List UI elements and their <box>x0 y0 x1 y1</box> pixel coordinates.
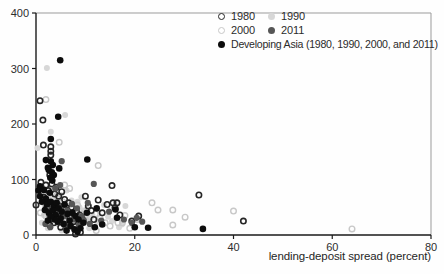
y-tick-label: 300 <box>11 63 29 75</box>
legend-marker-2011-icon <box>268 27 275 34</box>
data-point <box>56 140 62 146</box>
data-point <box>60 221 67 228</box>
legend-item-1980: 1980 <box>218 10 268 22</box>
legend-row-1: 1980 1990 <box>218 9 438 23</box>
data-point <box>100 210 105 215</box>
legend-item-1990: 1990 <box>268 10 305 22</box>
legend-marker-1980-icon <box>218 13 225 20</box>
x-tick-label: 20 <box>129 241 141 253</box>
data-point <box>41 187 48 194</box>
legend-label-developing-asia: Developing Asia (1980, 1990, 2000, and 2… <box>231 38 438 50</box>
data-point <box>61 201 68 208</box>
data-point <box>57 57 64 64</box>
y-tick-label: 400 <box>11 7 29 19</box>
data-point <box>134 215 140 221</box>
y-tick-label: 100 <box>11 174 29 186</box>
data-point <box>47 224 53 230</box>
data-point <box>99 221 106 228</box>
y-tick-label: 200 <box>11 118 29 130</box>
data-point <box>241 218 246 223</box>
data-point <box>45 217 52 224</box>
x-tick-label: 40 <box>227 241 239 253</box>
data-point <box>114 215 121 222</box>
data-point <box>80 220 87 227</box>
data-point <box>53 200 60 207</box>
data-point <box>107 223 113 229</box>
data-point <box>121 216 127 222</box>
data-point <box>40 117 45 122</box>
data-point <box>145 225 152 232</box>
legend-label-2011: 2011 <box>281 24 304 36</box>
data-point <box>91 181 97 187</box>
y-tick-label: 0 <box>23 229 29 241</box>
legend-label-1980: 1980 <box>231 10 255 22</box>
data-point <box>48 129 54 135</box>
data-point <box>182 214 188 220</box>
data-point <box>95 163 101 169</box>
data-point <box>59 158 65 164</box>
data-point <box>48 136 55 143</box>
legend-marker-developing-asia-icon <box>218 41 225 48</box>
data-point <box>66 217 73 224</box>
data-point <box>47 190 54 197</box>
legend-row-3: Developing Asia (1980, 1990, 2000, and 2… <box>218 37 438 51</box>
data-point <box>43 97 49 103</box>
data-point <box>35 145 41 151</box>
legend-item-2000: 2000 <box>218 24 268 36</box>
data-point <box>56 165 63 172</box>
data-point <box>231 208 237 214</box>
data-point <box>52 185 58 191</box>
data-point <box>41 142 46 147</box>
data-point <box>93 205 100 212</box>
legend-item-2011: 2011 <box>268 24 304 36</box>
data-point <box>69 201 75 207</box>
data-point <box>55 114 62 121</box>
data-point <box>196 192 201 197</box>
data-point <box>170 222 176 228</box>
data-point <box>92 224 99 231</box>
data-point <box>49 177 56 184</box>
legend-row-2: 2000 2011 <box>218 23 438 37</box>
data-point <box>122 203 128 209</box>
series-developing <box>35 57 206 235</box>
legend-item-developing-asia: Developing Asia (1980, 1990, 2000, and 2… <box>218 38 438 50</box>
data-point <box>149 200 155 206</box>
legend: 1980 1990 2000 2011 Developing Asia (198… <box>218 9 438 51</box>
data-point <box>155 207 161 213</box>
data-point <box>58 208 65 215</box>
data-point <box>170 207 176 213</box>
data-point <box>84 156 91 163</box>
scatter-chart-figure: 0204060800100200300400 1980 1990 2000 20… <box>0 0 444 274</box>
data-point <box>44 65 50 71</box>
legend-marker-2000-icon <box>218 27 225 34</box>
data-point <box>139 219 145 225</box>
data-point <box>62 112 68 118</box>
x-axis-title: lending-deposit spread (percent) <box>269 250 431 262</box>
data-point <box>85 200 91 206</box>
legend-label-1990: 1990 <box>281 10 305 22</box>
data-point <box>200 226 207 233</box>
data-point <box>132 224 139 231</box>
data-point <box>112 206 119 213</box>
data-point <box>106 209 112 215</box>
legend-marker-1990-icon <box>268 13 275 20</box>
data-point <box>63 227 70 234</box>
legend-label-2000: 2000 <box>231 24 255 36</box>
data-point <box>84 210 91 217</box>
data-point <box>37 98 42 103</box>
data-point <box>96 197 101 202</box>
x-tick-label: 0 <box>33 241 39 253</box>
data-point <box>349 226 355 232</box>
data-point <box>109 183 114 188</box>
